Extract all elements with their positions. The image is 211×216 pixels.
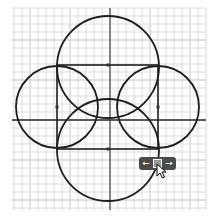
grid <box>12 8 206 210</box>
shapes-layer <box>16 16 199 201</box>
drawing-canvas[interactable] <box>0 0 211 216</box>
circle-top <box>57 16 159 118</box>
control-point <box>157 106 160 109</box>
control-point <box>107 64 110 67</box>
move-left-button[interactable]: ← <box>141 159 151 168</box>
control-points <box>56 64 160 151</box>
coordinate-axes <box>12 8 206 210</box>
control-point <box>56 106 59 109</box>
mouse-pointer-icon <box>156 163 168 179</box>
control-point <box>107 148 110 151</box>
